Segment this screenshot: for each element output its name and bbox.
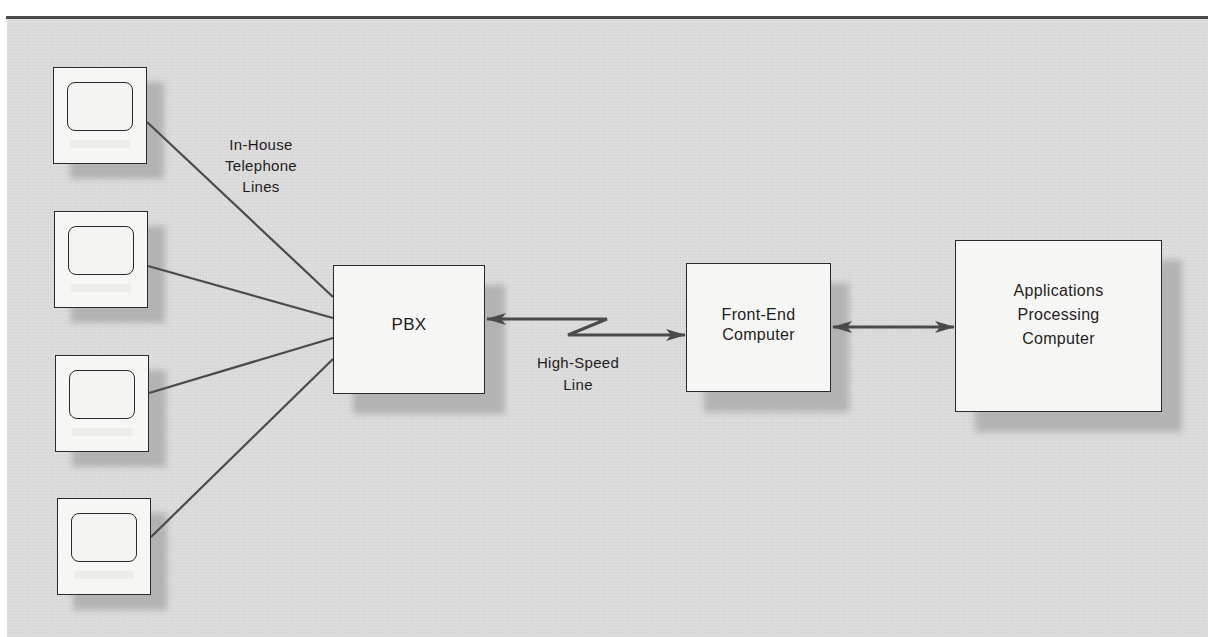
terminal-slot (71, 284, 131, 292)
telephone-line-4 (151, 359, 333, 537)
terminal-icon (67, 82, 133, 131)
high-speed-line-label-line2: Line (523, 374, 633, 396)
terminal-4 (57, 498, 151, 595)
terminal-icon (69, 370, 135, 419)
terminal-2 (54, 211, 148, 308)
pbx-node: PBX (333, 265, 485, 394)
telephone-lines-label-line2: Telephone (206, 155, 316, 176)
terminal-slot (70, 140, 130, 148)
applications-label-line1: Applications (1014, 279, 1104, 303)
telephone-lines-label-line1: In-House (206, 134, 316, 155)
high-speed-line-label-line1: High-Speed (523, 352, 633, 374)
terminal-3 (55, 355, 149, 452)
terminal-icon (68, 226, 134, 275)
terminal-slot (72, 428, 132, 436)
terminal-icon (71, 513, 137, 562)
front-end-label-line2: Computer (722, 325, 796, 345)
applications-processing-computer-node: Applications Processing Computer (955, 240, 1162, 412)
front-end-computer-node: Front-End Computer (686, 263, 831, 392)
pbx-label: PBX (392, 315, 427, 335)
applications-label-line2: Processing (1014, 303, 1104, 327)
high-speed-line-label: High-Speed Line (523, 352, 633, 396)
applications-label-line3: Computer (1014, 327, 1104, 351)
telephone-line-2 (148, 266, 333, 318)
front-end-label-line1: Front-End (722, 305, 796, 325)
high-speed-line (487, 319, 685, 335)
telephone-lines-label-line3: Lines (206, 176, 316, 197)
terminal-slot (74, 571, 134, 579)
terminal-1 (53, 67, 147, 164)
telephone-lines-label: In-House Telephone Lines (206, 134, 316, 197)
